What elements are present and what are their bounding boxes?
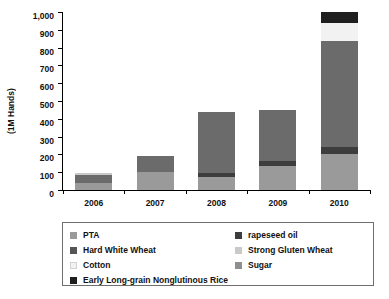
bar-segment [259,110,296,161]
bar-2010 [321,12,358,190]
y-tick-label: 700 [40,65,54,73]
bar-segment [137,156,174,172]
legend-item[interactable]: Early Long-grain Nonglutinous Rice [70,273,240,287]
x-tick-mark [63,190,64,194]
bar-segment [75,173,112,175]
y-tick-mark [58,30,62,31]
bar-segment [75,175,112,183]
stacked-bar-chart: (1M Hands) 1,000900800700600500400300200… [0,0,389,299]
legend-column-right: rapeseed oilStrong Gluten WheatSugar [235,228,371,273]
x-tick-mark [124,190,125,194]
y-tick-label: 300 [40,137,54,145]
y-tick-mark [58,83,62,84]
y-tick-mark [58,48,62,49]
y-tick-label: 500 [40,101,54,109]
y-tick-label: 900 [40,30,54,38]
y-tick-mark [58,137,62,138]
y-tick-label: 400 [40,119,54,127]
y-tick-mark [58,12,62,13]
bar-2007 [137,156,174,190]
x-tick-label-2006: 2006 [71,198,117,208]
bar-segment [321,12,358,23]
bar-2006 [75,173,112,190]
legend-swatch-icon [235,262,242,269]
x-axis-tick-labels: 20062007200820092010 [63,198,370,214]
y-tick-label: 0 [49,190,54,198]
legend-swatch-icon [235,232,242,239]
y-axis-tick-labels: 1,0009008007006005004003002001000 [18,12,58,190]
bar-2008 [198,112,235,190]
bar-segment [137,172,174,190]
y-tick-label: 1,000 [33,12,54,20]
bar-segment [259,166,296,190]
legend-label: PTA [83,230,99,240]
legend-label: Hard White Wheat [83,245,156,255]
y-tick-label: 200 [40,154,54,162]
legend-label: Strong Gluten Wheat [248,245,333,255]
legend-swatch-icon [70,277,77,284]
bar-segment [198,173,235,177]
legend-label: Sugar [248,260,272,270]
y-tick-label: 100 [40,172,54,180]
y-axis-title: (1M Hands) [4,56,18,166]
bar-segment [198,112,235,173]
y-tick-mark [58,65,62,66]
x-axis-line [62,190,370,191]
plot-area: (1M Hands) 1,000900800700600500400300200… [0,8,389,213]
bar-segment [321,41,358,147]
x-tick-mark [309,190,310,194]
x-tick-label-2008: 2008 [194,198,240,208]
legend-label: rapeseed oil [248,230,298,240]
legend-item[interactable]: Hard White Wheat [70,243,240,257]
bar-segment [321,147,358,154]
y-tick-mark [58,154,62,155]
bar-segment [198,177,235,190]
x-tick-mark [186,190,187,194]
y-tick-label: 600 [40,83,54,91]
chart-legend: PTAHard White WheatCottonEarly Long-grai… [62,222,374,286]
legend-swatch-icon [70,232,77,239]
y-tick-mark [58,190,62,191]
legend-swatch-icon [70,262,77,269]
y-tick-mark [58,172,62,173]
bar-segment [321,154,358,190]
legend-item[interactable]: PTA [70,228,240,242]
x-tick-label-2009: 2009 [255,198,301,208]
y-tick-label: 800 [40,48,54,56]
legend-label: Cotton [83,260,110,270]
x-tick-label-2007: 2007 [132,198,178,208]
bar-series-container [63,12,370,190]
legend-item[interactable]: Cotton [70,258,240,272]
bar-segment [321,23,358,42]
bar-segment [259,161,296,166]
legend-item[interactable]: Sugar [235,258,371,272]
y-tick-mark [58,101,62,102]
legend-label: Early Long-grain Nonglutinous Rice [83,275,228,285]
legend-column-left: PTAHard White WheatCottonEarly Long-grai… [70,228,240,288]
legend-item[interactable]: rapeseed oil [235,228,371,242]
bar-segment [75,183,112,190]
legend-swatch-icon [70,247,77,254]
bar-2009 [259,110,296,190]
y-tick-mark [58,119,62,120]
x-tick-mark [247,190,248,194]
legend-item[interactable]: Strong Gluten Wheat [235,243,371,257]
x-tick-mark [370,190,371,194]
legend-swatch-icon [235,247,242,254]
x-tick-label-2010: 2010 [316,198,362,208]
